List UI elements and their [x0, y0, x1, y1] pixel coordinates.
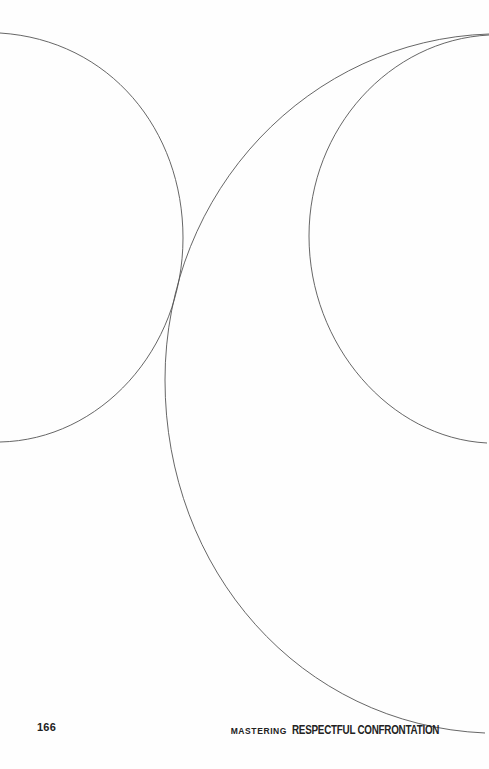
left-arc	[0, 33, 183, 442]
running-title: MASTERING RESPECTFUL CONFRONTATION	[231, 720, 448, 738]
running-title-main: RESPECTFUL CONFRONTATION	[292, 723, 439, 737]
right-small-arc	[309, 35, 489, 443]
page-number: 166	[37, 721, 56, 733]
running-title-prefix: MASTERING	[231, 726, 287, 736]
large-arc	[165, 34, 489, 733]
book-page: 166 MASTERING RESPECTFUL CONFRONTATION	[0, 0, 489, 769]
decorative-arcs	[0, 0, 489, 769]
